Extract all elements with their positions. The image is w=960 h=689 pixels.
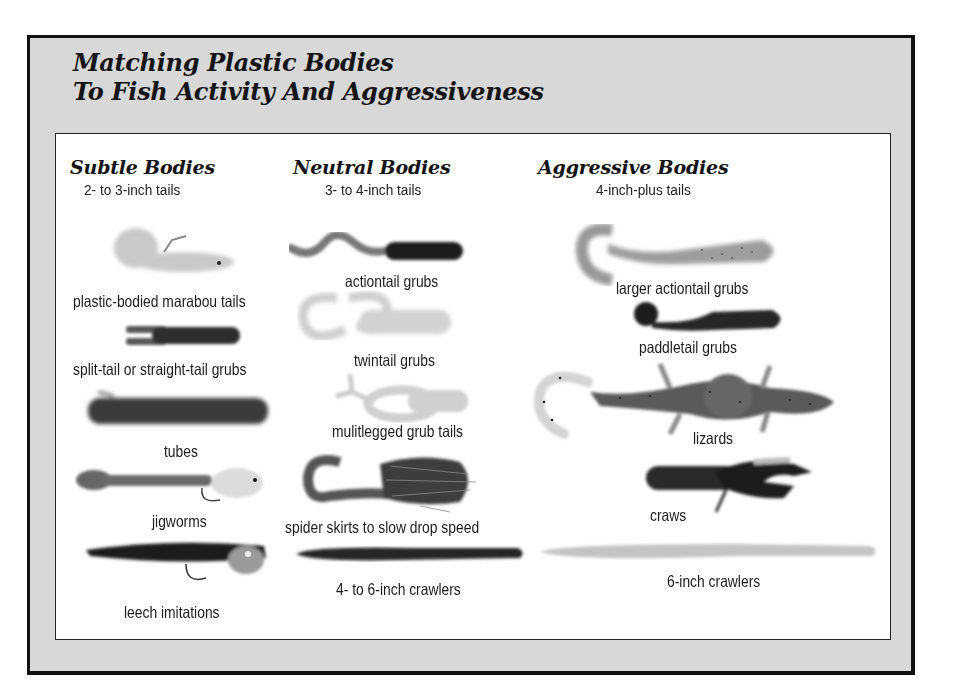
item-label: mulitlegged grub tails	[332, 422, 463, 441]
item-label: actiontail grubs	[345, 272, 438, 291]
column-heading-neutral: Neutral Bodies	[293, 156, 450, 178]
jigworm-icon	[72, 466, 272, 506]
split-tail-grub-icon	[124, 322, 244, 352]
column-subheading-subtle: 2- to 3-inch tails	[84, 181, 180, 199]
item-label: split-tail or straight-tail grubs	[73, 360, 246, 379]
item-label: paddletail grubs	[639, 338, 737, 357]
crawler-icon	[292, 540, 528, 564]
content-box: Subtle Bodies 2- to 3-inch tails Neutral…	[55, 133, 891, 640]
column-subheading-aggressive: 4-inch-plus tails	[596, 181, 691, 199]
item-label: spider skirts to slow drop speed	[285, 518, 479, 537]
title-line-1: Matching Plastic Bodies	[73, 48, 544, 77]
figure-title: Matching Plastic Bodies To Fish Activity…	[73, 48, 544, 106]
item-label: lizards	[693, 429, 733, 448]
tube-icon	[84, 386, 274, 434]
long-crawler-icon	[536, 538, 882, 562]
large-actiontail-grub-icon	[572, 222, 784, 286]
paddletail-grub-icon	[632, 300, 788, 338]
item-label: tubes	[164, 442, 198, 461]
leech-icon	[82, 536, 272, 592]
multilegged-grub-icon	[334, 370, 474, 424]
item-label: leech imitations	[124, 603, 220, 622]
item-label: plastic-bodied marabou tails	[73, 292, 246, 311]
item-label: twintail grubs	[354, 351, 435, 370]
item-label: jigworms	[152, 512, 207, 531]
item-label: 6-inch crawlers	[667, 572, 760, 591]
item-label: 4- to 6-inch crawlers	[336, 580, 461, 599]
column-heading-aggressive: Aggressive Bodies	[538, 156, 728, 178]
marabou-jig-icon	[106, 222, 236, 280]
item-label: craws	[650, 506, 686, 525]
actiontail-grub-icon	[289, 228, 469, 268]
spider-skirt-grub-icon	[300, 452, 480, 514]
lizard-icon	[530, 362, 840, 442]
twintail-grub-icon	[297, 290, 457, 354]
figure-panel: Matching Plastic Bodies To Fish Activity…	[27, 35, 915, 675]
title-line-2: To Fish Activity And Aggressiveness	[73, 77, 544, 106]
column-heading-subtle: Subtle Bodies	[70, 156, 215, 178]
column-subheading-neutral: 3- to 4-inch tails	[325, 181, 421, 199]
item-label: larger actiontail grubs	[616, 279, 749, 298]
